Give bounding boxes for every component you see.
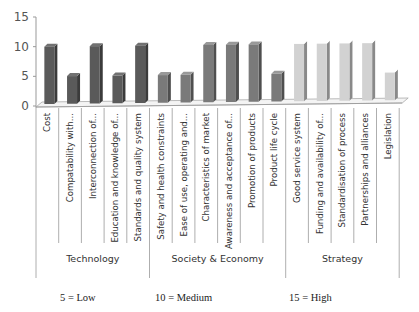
bar <box>158 72 171 103</box>
x-group-label: Technology <box>65 253 120 264</box>
y-tick-label: 5 <box>21 69 29 83</box>
bar <box>294 41 307 101</box>
x-axis-group-labels: TechnologySociety & EconomyStrategy <box>65 253 363 264</box>
bar <box>112 73 125 104</box>
y-tick-label: 10 <box>14 40 29 54</box>
x-category-label: Partnerships and alliances <box>360 112 370 225</box>
x-category-label: Standards and quality system <box>133 113 143 241</box>
x-category-label: Education and knowledge of... <box>110 113 120 243</box>
x-category-label: Characteristics of market <box>201 112 211 221</box>
bar-chart: 051015 CostCompatability with...Intercon… <box>0 0 419 312</box>
x-category-label: Good service system <box>292 113 302 203</box>
x-category-label: Legislation <box>383 113 393 159</box>
x-category-label: Ease of use, operating and... <box>179 113 189 236</box>
bar <box>44 44 57 104</box>
x-category-label: Compatability with... <box>65 113 75 202</box>
y-tick-label: 0 <box>21 99 29 113</box>
bar <box>271 71 284 102</box>
bars <box>44 40 398 104</box>
bar <box>249 41 262 101</box>
x-category-label: Awareness and acceptance of... <box>224 113 234 249</box>
x-category-label: Funding and availability of... <box>315 113 325 234</box>
x-group-label: Strategy <box>322 253 363 264</box>
x-category-label: Cost <box>42 112 52 132</box>
bar <box>67 73 80 104</box>
x-category-label: Product life cycle <box>269 113 279 186</box>
bar <box>203 42 216 102</box>
bar <box>362 40 375 100</box>
bar <box>385 70 398 101</box>
bar <box>339 40 352 100</box>
legend-high: 15 = High <box>289 292 332 303</box>
y-tick-label: 15 <box>14 10 29 24</box>
x-group-label: Society & Economy <box>172 253 264 264</box>
bar <box>317 41 330 101</box>
x-category-label: Standardisation of process <box>337 112 347 227</box>
x-category-label: Promotion of products <box>247 112 257 208</box>
bar <box>226 42 239 102</box>
y-axis: 051015 <box>14 10 36 113</box>
bar <box>181 72 194 103</box>
bar <box>135 43 148 103</box>
legend-medium: 10 = Medium <box>155 292 212 303</box>
bar <box>90 43 103 103</box>
x-category-label: Interconnection of... <box>88 113 98 199</box>
legend-low: 5 = Low <box>60 292 96 303</box>
x-category-label: Safety and health constraints <box>156 112 166 239</box>
